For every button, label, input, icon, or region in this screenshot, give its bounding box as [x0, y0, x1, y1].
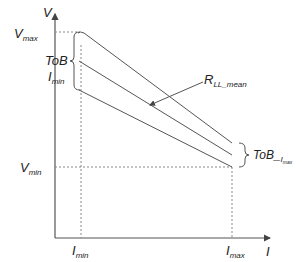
vmin-sub: min	[29, 168, 42, 177]
vmin-label: Vmin	[20, 161, 42, 177]
imin-bracket-sub: min	[52, 77, 65, 86]
imin-axis-sub: min	[76, 251, 89, 260]
imax-axis-label: Imax	[226, 244, 245, 260]
voltage-current-diagram: V I Vmax ToB Imin Vmin Imin Imax RLL_mea…	[0, 0, 302, 262]
imin-bracket-label: Imin	[48, 70, 65, 86]
imin-axis-label: Imin	[72, 244, 89, 260]
tob-imax-sub-sub: max	[283, 159, 292, 165]
lower-line	[79, 90, 232, 167]
vmax-sub: max	[23, 34, 38, 43]
r-ll-mean-label: RLL_mean	[204, 73, 247, 89]
tob-imax-main: ToB_	[253, 148, 281, 162]
tob-imax-label: ToB_Imax	[253, 149, 292, 165]
x-axis-label: I	[266, 245, 270, 258]
r-ll-mean-sub: LL_mean	[213, 80, 246, 89]
left-brace	[70, 32, 80, 90]
imax-axis-sub: max	[230, 251, 245, 260]
y-axis-label: V	[43, 6, 52, 19]
right-brace	[239, 143, 249, 167]
diagram-graphics	[0, 0, 302, 262]
vmax-label: Vmax	[14, 27, 38, 43]
vmax-main: V	[14, 26, 23, 41]
vmin-main: V	[20, 160, 29, 175]
tob-left-label: ToB	[45, 54, 68, 67]
r-ll-mean-main: R	[204, 72, 213, 87]
